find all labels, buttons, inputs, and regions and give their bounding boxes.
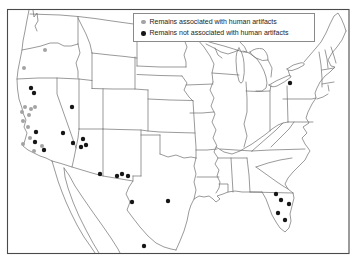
- specimen-dot: [32, 91, 36, 95]
- specimen-dot: [33, 105, 37, 109]
- specimen-dot: [28, 136, 32, 140]
- specimen-dot: [130, 200, 134, 204]
- specimen-dot: [21, 142, 25, 146]
- map-frame: [8, 10, 350, 254]
- specimen-dot: [61, 131, 65, 135]
- specimen-dot: [29, 107, 33, 111]
- specimen-dot: [27, 113, 31, 117]
- specimen-dot: [21, 119, 25, 123]
- specimen-dot: [43, 48, 47, 52]
- specimen-dot: [287, 202, 291, 206]
- specimen-dot: [81, 137, 85, 141]
- specimen-dot: [279, 198, 283, 202]
- specimen-dot: [70, 105, 74, 109]
- legend: Remains associated with human artifacts …: [133, 13, 315, 42]
- specimen-dot: [42, 148, 46, 152]
- specimen-dot: [84, 143, 88, 147]
- specimen-dot: [120, 172, 124, 176]
- specimen-dot: [71, 141, 75, 145]
- specimen-dot: [274, 192, 278, 196]
- specimen-dot: [20, 110, 24, 114]
- specimen-dot: [288, 81, 292, 85]
- distribution-map-figure: Remains associated with human artifacts …: [0, 0, 358, 262]
- legend-item-associated: Remains associated with human artifacts: [141, 17, 314, 27]
- specimen-dot: [115, 174, 119, 178]
- specimen-dot: [22, 66, 26, 70]
- specimen-dot: [79, 145, 83, 149]
- specimen-dot: [40, 144, 44, 148]
- specimen-dot: [33, 140, 37, 144]
- legend-label-associated: Remains associated with human artifacts: [150, 17, 277, 27]
- specimen-dot: [283, 218, 287, 222]
- specimen-dot: [142, 244, 146, 248]
- associated-dot-icon: [141, 20, 146, 25]
- specimen-dot: [34, 130, 38, 134]
- specimen-dot: [26, 125, 30, 129]
- specimen-dot: [166, 199, 170, 203]
- specimen-dot: [98, 172, 102, 176]
- specimen-dot: [29, 86, 33, 90]
- specimen-dot: [126, 174, 130, 178]
- specimen-dot: [276, 211, 280, 215]
- specimen-dot: [32, 149, 36, 153]
- legend-item-not-associated: Remains not associated with human artifa…: [141, 28, 314, 38]
- not-associated-dot-icon: [141, 31, 146, 36]
- legend-label-not-associated: Remains not associated with human artifa…: [150, 28, 289, 38]
- specimen-dot: [23, 105, 27, 109]
